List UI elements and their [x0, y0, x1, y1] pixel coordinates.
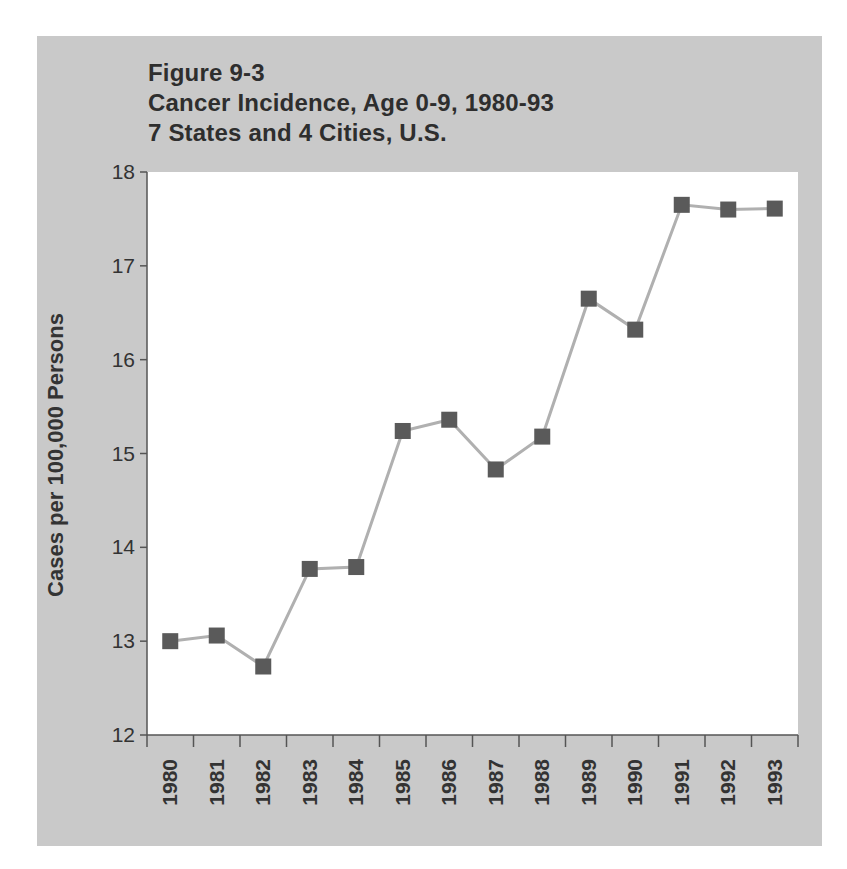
data-point-marker — [767, 201, 783, 217]
data-point-marker — [441, 412, 457, 428]
data-point-marker — [348, 559, 364, 575]
data-point-marker — [534, 429, 550, 445]
data-point-marker — [162, 633, 178, 649]
y-tick-label: 15 — [112, 442, 135, 465]
data-point-marker — [209, 628, 225, 644]
data-point-marker — [720, 202, 736, 218]
y-axis-ticks: 12131415161718 — [112, 160, 147, 746]
x-tick-label: 1990 — [623, 759, 646, 806]
data-point-marker — [581, 291, 597, 307]
x-tick-label: 1983 — [298, 759, 321, 806]
y-tick-label: 12 — [112, 723, 135, 746]
data-point-marker — [488, 461, 504, 477]
x-tick-label: 1989 — [577, 759, 600, 806]
x-tick-label: 1985 — [391, 759, 414, 806]
x-tick-label: 1986 — [437, 759, 460, 806]
x-tick-label: 1991 — [670, 759, 693, 806]
data-point-marker — [674, 197, 690, 213]
data-point-marker — [395, 423, 411, 439]
data-point-marker — [302, 561, 318, 577]
data-point-marker — [255, 659, 271, 675]
x-tick-label: 1980 — [158, 759, 181, 806]
line-chart: 12131415161718 1980198119821983198419851… — [0, 0, 847, 869]
x-axis-ticks: 1980198119821983198419851986198719881989… — [147, 735, 798, 806]
data-point-marker — [627, 322, 643, 338]
x-tick-label: 1987 — [484, 759, 507, 806]
x-tick-label: 1993 — [763, 759, 786, 806]
x-tick-label: 1981 — [205, 759, 228, 806]
y-tick-label: 13 — [112, 629, 135, 652]
x-tick-label: 1992 — [716, 759, 739, 806]
y-tick-label: 18 — [112, 160, 135, 183]
x-tick-label: 1988 — [530, 759, 553, 806]
y-tick-label: 17 — [112, 254, 135, 277]
x-tick-label: 1984 — [344, 759, 367, 806]
x-tick-label: 1982 — [251, 759, 274, 806]
y-tick-label: 14 — [112, 535, 136, 558]
y-tick-label: 16 — [112, 348, 135, 371]
plot-area — [147, 172, 798, 735]
